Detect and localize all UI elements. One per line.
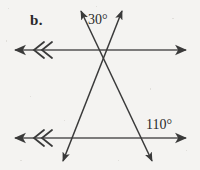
angle-measure-30-label: 30° xyxy=(88,13,108,27)
geometry-figure: b. 30° 110° xyxy=(0,0,200,170)
bottom-parallel-line xyxy=(15,130,186,146)
top-parallel-line xyxy=(15,42,186,58)
figure-part-label: b. xyxy=(30,13,43,28)
angle-measure-110-label: 110° xyxy=(146,118,172,132)
